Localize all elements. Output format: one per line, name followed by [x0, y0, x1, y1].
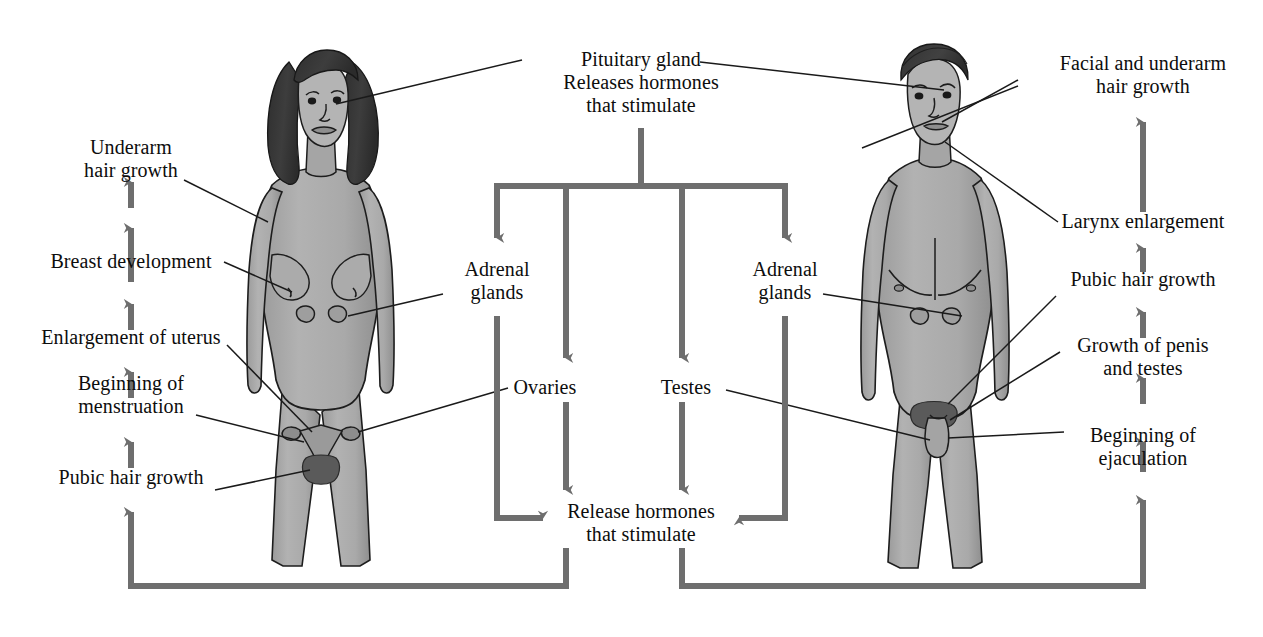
male-body-illustration — [861, 44, 1009, 568]
label-beginning-of-menstruation: Beginning of menstruation — [78, 372, 184, 418]
label-adrenal-glands-right: Adrenal glands — [752, 258, 817, 304]
puberty-hormone-diagram: Pituitary gland Releases hormones that s… — [0, 0, 1263, 637]
label-larynx-enlargement: Larynx enlargement — [1061, 210, 1224, 233]
label-breast-development: Breast development — [50, 250, 211, 273]
label-growth-of-penis-and-testes: Growth of penis and testes — [1077, 334, 1208, 380]
leader-underarm-hair-female — [184, 180, 268, 222]
label-facial-underarm-hair-growth: Facial and underarm hair growth — [1060, 52, 1226, 98]
label-adrenal-glands-left: Adrenal glands — [464, 258, 529, 304]
label-pubic-hair-growth-female: Pubic hair growth — [58, 466, 203, 489]
label-release-hormones: Release hormones that stimulate — [567, 500, 715, 546]
label-enlargement-of-uterus: Enlargement of uterus — [41, 326, 220, 349]
female-body-illustration — [247, 50, 394, 566]
label-testes: Testes — [661, 376, 711, 399]
label-ovaries: Ovaries — [514, 376, 577, 399]
label-pubic-hair-growth-male: Pubic hair growth — [1070, 268, 1215, 291]
arrow-adrenal-right-to-release — [739, 316, 785, 518]
label-beginning-of-ejaculation: Beginning of ejaculation — [1090, 424, 1196, 470]
label-underarm-hair-growth-female: Underarm hair growth — [84, 136, 178, 182]
label-pituitary-gland: Pituitary gland Releases hormones that s… — [563, 48, 719, 117]
arrow-adrenal-left-to-release — [497, 316, 543, 518]
leader-ovaries — [358, 388, 508, 432]
